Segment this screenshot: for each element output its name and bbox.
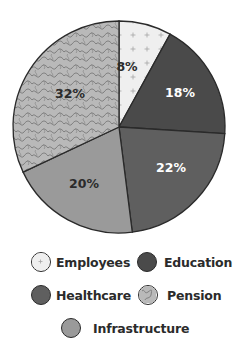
legend-label-healthcare: Healthcare [56, 288, 131, 303]
legend-item-education: Education [137, 250, 232, 274]
slice-label-pension: 32% [55, 86, 85, 101]
pie-slices [13, 21, 225, 233]
legend-item-pension: Pension [138, 283, 221, 307]
legend-swatch-infrastructure-icon [61, 318, 81, 338]
legend-label-infrastructure: Infrastructure [93, 321, 189, 336]
legend-item-infrastructure: Infrastructure [61, 316, 189, 340]
slice-label-education: 18% [165, 85, 195, 100]
legend-swatch-employees-icon [31, 252, 51, 272]
slice-label-employees: 8% [116, 59, 138, 74]
legend-label-pension: Pension [167, 288, 221, 303]
legend-swatch-pension-icon [138, 285, 158, 305]
pie-chart: 8%18%22%20%32% [0, 0, 237, 240]
legend-swatch-education-icon [137, 252, 157, 272]
slice-label-healthcare: 22% [156, 160, 186, 175]
legend-item-healthcare: Healthcare [31, 283, 131, 307]
legend-item-employees: Employees [31, 250, 130, 274]
legend-swatch-healthcare-icon [31, 285, 51, 305]
pie-slice-healthcare [119, 127, 225, 232]
legend-label-employees: Employees [56, 255, 130, 270]
legend-label-education: Education [164, 255, 232, 270]
slice-label-infrastructure: 20% [69, 176, 99, 191]
